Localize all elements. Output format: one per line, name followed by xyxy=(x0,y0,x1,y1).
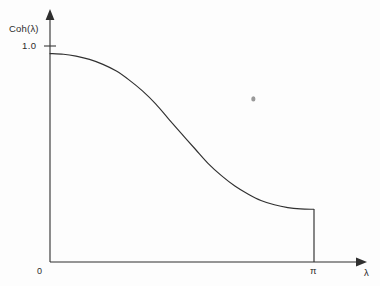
y-axis-tick-label-1: 1.0 xyxy=(22,41,36,51)
x-axis-arrowhead-icon xyxy=(356,257,367,266)
y-axis-group xyxy=(44,9,56,262)
x-axis-group xyxy=(50,257,367,266)
x-axis-label: λ xyxy=(364,268,369,278)
y-axis-label: Coh(λ) xyxy=(9,24,39,34)
plot-canvas xyxy=(0,0,380,286)
x-axis-tick-label-pi: π xyxy=(310,266,317,276)
y-axis-arrowhead-icon xyxy=(46,9,55,20)
coherence-chart-figure: Coh(λ) 1.0 0 π λ xyxy=(0,0,380,286)
data-series-group xyxy=(50,54,314,262)
origin-label: 0 xyxy=(37,267,42,276)
coherence-curve xyxy=(50,54,314,210)
scan-speck-artifact xyxy=(251,96,255,101)
